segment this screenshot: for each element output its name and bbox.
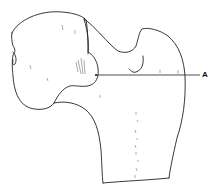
femur-diagram: [0, 0, 216, 196]
label-a: A: [202, 70, 208, 79]
bone-texture: [30, 25, 178, 178]
neck-superior-border: [84, 19, 185, 178]
trochanteric-detail: [129, 56, 143, 72]
fovea-notch: [13, 52, 16, 65]
shaft-base: [103, 178, 169, 183]
femoral-head-outline: [12, 12, 99, 110]
leader-dot: [95, 74, 97, 76]
shaft-medial-border: [54, 102, 103, 183]
